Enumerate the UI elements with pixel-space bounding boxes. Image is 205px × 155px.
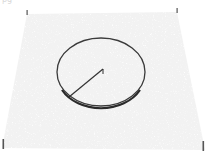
surface-plane <box>2 12 205 151</box>
surface-scan-render <box>0 0 205 155</box>
corner-tick-top-left <box>27 10 28 15</box>
corner-tick-bottom-left <box>3 139 5 149</box>
corner-tick-bottom-right <box>203 141 205 151</box>
corner-tick-top-right <box>177 8 178 13</box>
